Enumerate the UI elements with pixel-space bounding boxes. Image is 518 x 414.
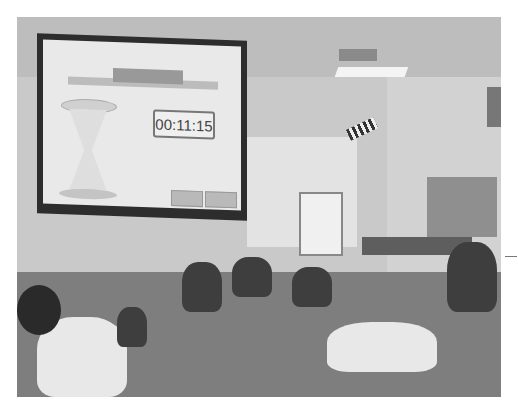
hourglass-icon bbox=[69, 108, 107, 191]
app-logo bbox=[113, 68, 183, 84]
ceiling-vent bbox=[339, 49, 377, 61]
classroom-photo: 00:11:15 bbox=[17, 17, 501, 397]
timer-button-2 bbox=[205, 191, 237, 208]
student-reading bbox=[117, 307, 147, 347]
student-head bbox=[17, 285, 61, 335]
annotation-line bbox=[505, 256, 517, 257]
projected-timer-app: 00:11:15 bbox=[43, 40, 241, 211]
easel-chart bbox=[299, 192, 343, 256]
student-seated bbox=[447, 242, 497, 312]
projector-screen: 00:11:15 bbox=[37, 33, 247, 220]
bookshelf bbox=[427, 177, 497, 237]
student-reading bbox=[232, 257, 272, 297]
student-reading bbox=[182, 262, 222, 312]
window bbox=[487, 87, 501, 127]
timer-button-1 bbox=[171, 190, 203, 207]
countdown-timer: 00:11:15 bbox=[153, 109, 215, 139]
student-reading bbox=[292, 267, 332, 307]
hourglass-icon-base bbox=[59, 188, 117, 200]
student-lying bbox=[327, 322, 437, 372]
